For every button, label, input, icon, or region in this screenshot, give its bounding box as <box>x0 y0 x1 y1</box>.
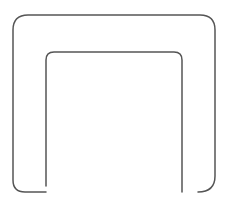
u-shape-diagram <box>0 0 228 205</box>
diagram-canvas <box>0 0 228 205</box>
inner-outline <box>46 52 182 192</box>
outer-outline <box>13 15 215 192</box>
